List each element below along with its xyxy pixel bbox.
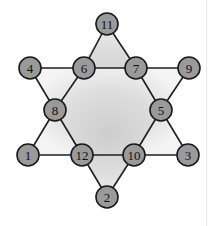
node-5: 5 (150, 99, 172, 121)
node-1: 1 (17, 144, 39, 166)
node-label: 6 (81, 61, 88, 76)
node-label: 12 (76, 148, 89, 163)
node-label: 11 (101, 17, 114, 32)
node-7: 7 (125, 57, 147, 79)
node-label: 9 (186, 61, 193, 76)
node-label: 3 (185, 148, 192, 163)
node-label: 4 (27, 61, 34, 76)
node-label: 7 (133, 61, 140, 76)
node-8: 8 (44, 99, 66, 121)
node-6: 6 (73, 57, 95, 79)
node-label: 8 (52, 103, 59, 118)
node-label: 5 (158, 103, 165, 118)
node-11: 11 (96, 13, 118, 35)
star-graph-diagram: 114679851121032 (0, 0, 216, 226)
node-3: 3 (177, 144, 199, 166)
node-9: 9 (178, 57, 200, 79)
node-10: 10 (123, 144, 145, 166)
node-12: 12 (71, 144, 93, 166)
node-label: 10 (128, 148, 141, 163)
node-4: 4 (19, 57, 41, 79)
node-label: 2 (104, 190, 111, 205)
node-label: 1 (25, 148, 32, 163)
node-2: 2 (96, 186, 118, 208)
